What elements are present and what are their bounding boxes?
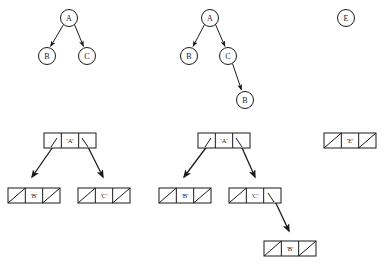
cons-middle-cell-c-label: 'C' bbox=[252, 192, 259, 199]
cons-left-cell-b: 'B' bbox=[8, 188, 60, 203]
tree-right-node-e-label: E bbox=[344, 14, 349, 23]
tree-middle-edge-c-b bbox=[233, 64, 242, 91]
figure-canvas: A B C A B C B E bbox=[0, 0, 385, 265]
cons-middle-cell-b2: 'B' bbox=[264, 241, 316, 256]
tree-middle-node-b2-label: B bbox=[242, 96, 247, 105]
cons-diagram-right: 'E' bbox=[324, 133, 376, 148]
cons-middle-cell-a-label: 'A' bbox=[220, 137, 227, 144]
tree-middle: A B C B bbox=[181, 10, 254, 109]
cons-left-cell-c-label: 'C' bbox=[101, 192, 108, 199]
cons-diagram-middle: 'A' 'B' 'C' bbox=[159, 133, 316, 256]
cons-left-cell-c: 'C' bbox=[78, 188, 130, 203]
tree-middle-node-a-label: A bbox=[207, 14, 213, 23]
tree-left-edge-a-b bbox=[51, 25, 64, 47]
tree-middle-edge-a-c bbox=[216, 25, 226, 47]
cons-diagram-left: 'A' 'B' 'C' bbox=[8, 133, 130, 203]
tree-left-node-a-label: A bbox=[66, 14, 72, 23]
cons-middle-cell-b: 'B' bbox=[159, 188, 211, 203]
tree-left-edge-a-c bbox=[75, 25, 84, 47]
cons-left-cell-b-label: 'B' bbox=[31, 192, 38, 199]
cons-middle-cell-c: 'C' bbox=[229, 188, 281, 203]
tree-left-node-b-label: B bbox=[44, 52, 49, 61]
cons-left-cell-a-label: 'A' bbox=[66, 137, 73, 144]
cons-left-cell-a: 'A' bbox=[44, 133, 96, 148]
tree-left-node-c-label: C bbox=[84, 52, 89, 61]
cons-middle-cell-b2-label: 'B' bbox=[287, 245, 294, 252]
binary-tree-cons-cell-figure: A B C A B C B E bbox=[0, 0, 385, 265]
cons-right-cell-e-label: 'E' bbox=[347, 137, 353, 144]
tree-right: E bbox=[338, 10, 355, 27]
tree-middle-edge-a-b bbox=[193, 25, 205, 47]
cons-middle-cell-a: 'A' bbox=[198, 133, 250, 148]
cons-middle-cell-b-label: 'B' bbox=[182, 192, 189, 199]
tree-left: A B C bbox=[39, 10, 96, 65]
tree-middle-node-c-label: C bbox=[225, 52, 230, 61]
cons-right-cell-e: 'E' bbox=[324, 133, 376, 148]
tree-middle-node-b-label: B bbox=[186, 52, 191, 61]
